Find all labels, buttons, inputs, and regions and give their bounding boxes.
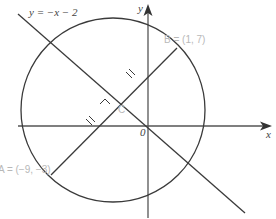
y-axis xyxy=(144,4,153,218)
tick-marks-upper xyxy=(126,69,135,78)
center-c-label: C xyxy=(118,104,125,115)
point-a-label: A = (−9, −3) xyxy=(0,164,51,175)
point-b-label: B = (1, 7) xyxy=(164,34,205,45)
line-equation-label: y = −x − 2 xyxy=(28,6,78,18)
coordinate-diagram: x y 0 y = −x − 2 C B = (1, 7) A = (−9, −… xyxy=(0,0,276,219)
right-angle-icon xyxy=(100,99,110,104)
line-y-eq-neg-x-minus-2 xyxy=(18,14,245,213)
x-axis-label: x xyxy=(265,128,271,140)
y-axis-label: y xyxy=(137,2,143,14)
tick-marks-lower xyxy=(86,116,95,125)
diameter-ab xyxy=(51,48,177,175)
origin-label: 0 xyxy=(140,126,146,138)
